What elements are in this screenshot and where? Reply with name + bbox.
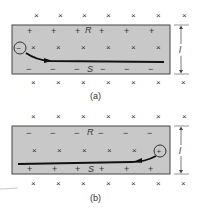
svg-text:−: − [74, 64, 79, 74]
carrier-sign-a: − [17, 44, 22, 53]
panel-a: × × × × × × × + + + + + + R × × × × × × [12, 11, 189, 101]
svg-text:×: × [31, 112, 36, 121]
svg-text:×: × [106, 78, 111, 87]
svg-text:×: × [156, 112, 161, 121]
svg-text:×: × [81, 43, 86, 52]
svg-text:×: × [156, 43, 161, 52]
svg-text:−: − [74, 128, 79, 138]
width-dimension-b: l [174, 126, 189, 174]
svg-text:×: × [81, 78, 86, 87]
label-r-a: R [85, 25, 92, 35]
svg-text:−: − [50, 64, 55, 74]
svg-text:×: × [131, 78, 136, 87]
svg-text:×: × [82, 11, 87, 20]
svg-text:−: − [26, 128, 31, 138]
svg-text:−: − [98, 128, 103, 138]
svg-text:−: − [26, 64, 31, 74]
svg-text:−: − [147, 128, 152, 138]
svg-text:+: + [124, 164, 129, 174]
svg-text:+: + [75, 164, 80, 174]
caption-b: (b) [90, 193, 101, 203]
svg-text:+: + [51, 26, 56, 36]
svg-text:+: + [99, 164, 104, 174]
svg-text:×: × [107, 146, 112, 155]
svg-text:×: × [56, 78, 61, 87]
svg-text:×: × [56, 43, 61, 52]
svg-text:×: × [156, 78, 161, 87]
svg-text:×: × [82, 146, 87, 155]
scan-artifact-line [0, 188, 18, 189]
svg-text:×: × [181, 179, 186, 188]
svg-text:×: × [156, 179, 161, 188]
svg-text:×: × [57, 146, 62, 155]
svg-text:×: × [156, 11, 161, 20]
svg-text:+: + [148, 164, 153, 174]
svg-text:×: × [32, 146, 37, 155]
svg-text:+: + [124, 26, 129, 36]
width-dimension-a: l [174, 25, 189, 74]
svg-text:−: − [148, 64, 153, 74]
label-s-b: S [88, 164, 94, 174]
svg-text:×: × [31, 78, 36, 87]
svg-text:×: × [56, 179, 61, 188]
svg-text:×: × [81, 112, 86, 121]
svg-text:+: + [75, 26, 80, 36]
svg-text:×: × [182, 11, 187, 20]
svg-text:×: × [81, 179, 86, 188]
svg-text:+: + [52, 164, 57, 174]
svg-text:×: × [131, 112, 136, 121]
magnetic-field-row-top-a: × × × × × × × [34, 11, 187, 20]
svg-text:−: − [124, 64, 129, 74]
hall-effect-diagram: × × × × × × × + + + + + + R × × × × × × [0, 0, 200, 209]
svg-text:×: × [182, 112, 187, 121]
label-s-a: S [87, 64, 93, 74]
svg-text:×: × [131, 179, 136, 188]
magnetic-field-row-bottom-a: × × × × × × × [31, 78, 186, 87]
svg-text:−: − [100, 64, 105, 74]
svg-text:×: × [131, 11, 136, 20]
svg-text:×: × [56, 112, 61, 121]
svg-text:l: l [179, 45, 182, 55]
svg-text:×: × [181, 78, 186, 87]
svg-text:−: − [123, 128, 128, 138]
svg-text:×: × [106, 112, 111, 121]
caption-a: (a) [90, 91, 101, 101]
svg-text:×: × [106, 43, 111, 52]
svg-text:×: × [106, 11, 111, 20]
svg-text:×: × [131, 43, 136, 52]
label-r-b: R [87, 127, 94, 137]
magnetic-field-row-bottom-b: × × × × × × × [31, 179, 186, 188]
svg-text:−: − [50, 128, 55, 138]
svg-text:+: + [27, 164, 32, 174]
svg-text:×: × [34, 11, 39, 20]
svg-text:+: + [99, 26, 104, 36]
panel-b: × × × × × × × − − − − − − R × × × × × [0, 112, 189, 203]
svg-text:×: × [31, 43, 36, 52]
svg-text:+: + [27, 26, 32, 36]
magnetic-field-row-top-b: × × × × × × × [31, 112, 187, 121]
svg-text:×: × [106, 179, 111, 188]
svg-text:+: + [149, 26, 154, 36]
carrier-sign-b: + [157, 147, 162, 156]
svg-text:×: × [31, 179, 36, 188]
svg-text:×: × [58, 11, 63, 20]
svg-text:×: × [132, 146, 137, 155]
svg-text:l: l [179, 146, 182, 156]
